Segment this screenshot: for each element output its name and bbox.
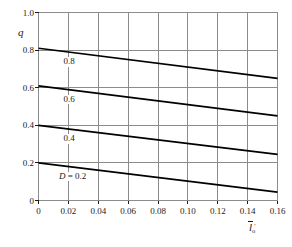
x-tick-label: 0 bbox=[36, 207, 41, 216]
x-tick-label: 0.06 bbox=[120, 207, 136, 216]
curve-label-1: 0.6 bbox=[62, 95, 75, 104]
x-tick-label: 0.14 bbox=[240, 207, 256, 216]
y-tick-label: 0.2 bbox=[8, 158, 34, 167]
y-tick-label: 1.0 bbox=[8, 8, 34, 17]
x-tick-label: 0.02 bbox=[61, 207, 77, 216]
curve-label-0: 0.8 bbox=[62, 57, 75, 66]
y-tick-label: 0.8 bbox=[8, 46, 34, 55]
x-tick-label: 0.12 bbox=[210, 207, 226, 216]
curve-label-3: D = 0.2 bbox=[58, 172, 87, 181]
vertical-gridlines bbox=[68, 13, 247, 201]
x-tick-label: 0.10 bbox=[180, 207, 196, 216]
x-tick-label: 0.08 bbox=[150, 207, 166, 216]
y-tick-label: 0.4 bbox=[8, 121, 34, 130]
x-axis-title: lo′ bbox=[248, 222, 258, 233]
curve-label-symbol: D bbox=[59, 171, 66, 181]
curve-label-2: 0.4 bbox=[62, 134, 75, 143]
y-axis-title: q bbox=[18, 27, 24, 38]
x-axis-title-prime: ′ bbox=[254, 222, 255, 229]
x-tick-label: 0.16 bbox=[270, 207, 286, 216]
x-tick-label: 0.04 bbox=[90, 207, 106, 216]
y-tick-label: 0.6 bbox=[8, 83, 34, 92]
chart-figure: q lo′ 00.020.040.060.080.100.120.140.16 … bbox=[0, 0, 292, 247]
y-tick-label: 0 bbox=[8, 196, 34, 205]
